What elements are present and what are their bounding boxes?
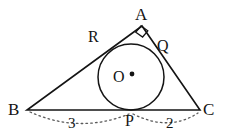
- vertex-label-b: B: [8, 101, 19, 118]
- arc-bp-dotted: [30, 112, 129, 124]
- tangency-label-q: Q: [157, 38, 169, 54]
- measure-label-bp: 3: [68, 116, 76, 131]
- vertex-label-c: C: [203, 101, 214, 118]
- measure-label-pc: 2: [166, 116, 174, 131]
- center-label-o: O: [113, 69, 125, 85]
- incircle: [98, 44, 164, 110]
- geometry-figure: A B C R Q P O 3 2: [0, 0, 233, 140]
- tangency-label-p: P: [125, 113, 134, 129]
- vertex-label-a: A: [135, 6, 147, 23]
- tangency-label-r: R: [88, 29, 99, 45]
- center-dot-icon: [130, 72, 135, 77]
